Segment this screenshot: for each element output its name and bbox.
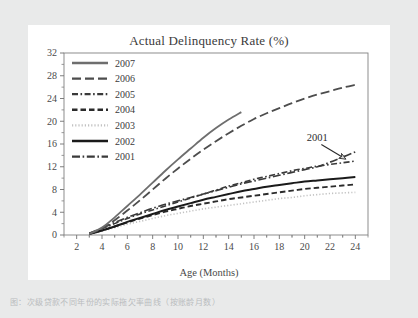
figure-caption: 图：次级贷款不同年份的实际拖欠率曲线（按账龄月数） [10, 296, 410, 310]
legend-layer: 2007200620052004200320022001 [72, 58, 135, 163]
series-line-2003 [89, 192, 355, 234]
x-tick-label: 6 [125, 241, 130, 252]
legend-label-2003: 2003 [115, 120, 135, 131]
y-tick-label: 24 [47, 93, 57, 104]
x-tick-label: 22 [325, 241, 335, 252]
x-tick-label: 24 [350, 241, 360, 252]
annotation-layer: 2001 [307, 132, 345, 159]
x-tick-label: 20 [300, 241, 310, 252]
legend-label-2004: 2004 [115, 104, 135, 115]
x-tick-label: 16 [249, 241, 259, 252]
x-tick-label: 8 [150, 241, 155, 252]
legend-label-2006: 2006 [115, 73, 135, 84]
legend-label-2001: 2001 [115, 151, 135, 162]
x-tick-label: 18 [274, 241, 284, 252]
y-tick-label: 8 [52, 184, 57, 195]
series-line-2005 [89, 161, 355, 233]
plot-frame [64, 53, 368, 235]
y-tick-label: 0 [52, 229, 57, 240]
y-tick-label: 16 [47, 138, 57, 149]
series-line-2007 [89, 112, 241, 234]
legend-label-2007: 2007 [115, 58, 135, 69]
x-tick-label: 4 [100, 241, 105, 252]
y-tick-label: 12 [47, 161, 57, 172]
annotation-arrow-2001 [321, 145, 345, 159]
x-axis-label: Age (Months) [28, 267, 390, 278]
x-tick-label: 14 [224, 241, 234, 252]
annotation-label-2001: 2001 [307, 132, 328, 143]
x-tick-label: 10 [173, 241, 183, 252]
x-tick-label: 2 [74, 241, 79, 252]
page-background: Actual Delinquency Rate (%) 048121620242… [0, 0, 418, 318]
delinquency-rate-line-chart: 04812162024283224681012141618202224 2007… [28, 25, 390, 280]
y-tick-label: 28 [47, 70, 57, 81]
y-tick-label: 32 [47, 47, 57, 58]
legend-label-2002: 2002 [115, 136, 135, 147]
figure-card: Actual Delinquency Rate (%) 048121620242… [28, 25, 390, 280]
x-tick-label: 12 [198, 241, 208, 252]
chart-plot-area: 04812162024283224681012141618202224 2007… [28, 25, 390, 280]
legend-label-2005: 2005 [115, 89, 135, 100]
axes-layer: 04812162024283224681012141618202224 [47, 47, 368, 252]
y-tick-label: 4 [52, 207, 57, 218]
y-tick-label: 20 [47, 116, 57, 127]
